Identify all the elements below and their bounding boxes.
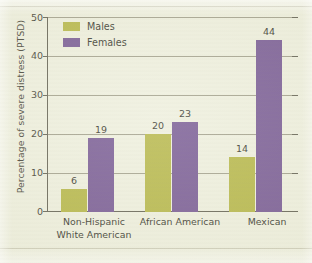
bar-males-non-hispanic-white-american[interactable]: 6 (61, 189, 87, 212)
bar-group-mexican: 14 44 (229, 17, 299, 212)
bar-label-females-african-american: 23 (179, 109, 191, 119)
bar-females-african-american[interactable]: 23 (172, 122, 198, 212)
legend-item-females[interactable]: Females (63, 36, 127, 49)
x-label-mexican: Mexican (212, 216, 312, 229)
legend-label-males: Males (87, 22, 115, 32)
figure-bottom-rule (0, 248, 312, 249)
bar-label-males-mexican: 14 (236, 144, 248, 154)
x-axis-category-labels: Non-Hispanic White American African Amer… (47, 216, 297, 256)
bar-group-african-american: 20 23 (145, 17, 215, 212)
bar-label-females-non-hispanic-white-american: 19 (95, 125, 107, 135)
bar-label-males-non-hispanic-white-american: 6 (71, 176, 77, 186)
bar-label-males-african-american: 20 (152, 121, 164, 131)
legend-label-females: Females (87, 38, 127, 48)
y-axis-title: Percentage of severe distress (PTSD) (15, 12, 26, 202)
bar-males-african-american[interactable]: 20 (145, 134, 171, 212)
legend-item-males[interactable]: Males (63, 20, 127, 33)
legend-swatch-females-icon (63, 38, 80, 47)
chart-figure: 50 40 30 20 10 0 Percentage of severe di… (0, 0, 312, 263)
chart-legend: Males Females (63, 20, 127, 52)
bar-females-mexican[interactable]: 44 (256, 40, 282, 212)
x-label-line-1: Mexican (212, 216, 312, 229)
x-label-line-2: White American (39, 229, 149, 242)
legend-swatch-males-icon (63, 22, 80, 31)
bar-males-mexican[interactable]: 14 (229, 157, 255, 212)
bar-females-non-hispanic-white-american[interactable]: 19 (88, 138, 114, 212)
figure-top-rule (0, 6, 312, 7)
bar-label-females-mexican: 44 (263, 27, 275, 37)
